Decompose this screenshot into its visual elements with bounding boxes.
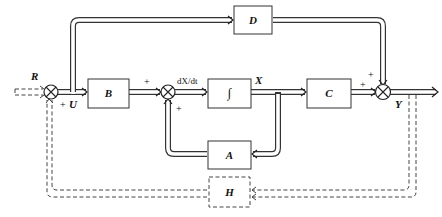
- block-h: H: [209, 177, 250, 207]
- block-diagram: B ∫ C D A H R U dX/dt X Y + + + + +: [0, 0, 442, 217]
- sign-sum1-bottom: +: [60, 99, 66, 110]
- block-h-label: H: [224, 186, 234, 198]
- sum-junction-3: [376, 85, 391, 100]
- block-b-label: B: [104, 87, 112, 99]
- sign-sum2-bottom: +: [176, 103, 182, 114]
- signal-u-label: U: [69, 98, 78, 110]
- block-c-label: C: [325, 87, 333, 99]
- sum-junction-1: [44, 85, 58, 99]
- sign-sum3-left: +: [360, 79, 366, 90]
- block-integrator: ∫: [208, 79, 251, 108]
- signal-r-label: R: [30, 70, 38, 82]
- sum-junction-2: [161, 85, 175, 99]
- block-c: C: [307, 79, 351, 108]
- sign-sum3-top: +: [368, 69, 374, 80]
- block-b: B: [88, 79, 129, 108]
- block-a-label: A: [225, 149, 233, 161]
- signal-dxdt-label: dX/dt: [177, 76, 198, 86]
- signal-x-label: X: [254, 74, 263, 86]
- block-d: D: [234, 6, 272, 34]
- block-d-label: D: [248, 14, 257, 26]
- sign-sum2-left: +: [144, 76, 150, 87]
- signal-y-label: Y: [395, 98, 403, 110]
- block-a: A: [208, 141, 251, 169]
